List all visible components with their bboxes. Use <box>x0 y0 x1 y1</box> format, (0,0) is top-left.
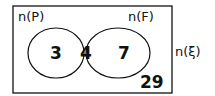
p-only-count: 3 <box>50 43 62 63</box>
f-only-count: 7 <box>118 43 130 63</box>
outside-count: 29 <box>140 72 164 92</box>
universal-label: n(ξ) <box>175 44 201 59</box>
set-p-label: n(P) <box>18 9 44 24</box>
intersection-count: 4 <box>80 43 92 63</box>
venn-diagram: n(P) n(F) n(ξ) 3 4 7 29 <box>0 0 215 96</box>
set-f-label: n(F) <box>128 9 154 24</box>
